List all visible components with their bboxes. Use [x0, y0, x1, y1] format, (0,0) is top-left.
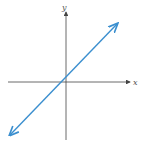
- y-axis-label: y: [61, 3, 67, 12]
- coordinate-plane: x y: [0, 0, 143, 145]
- x-axis-label: x: [133, 78, 138, 87]
- plotted-line: [10, 24, 117, 135]
